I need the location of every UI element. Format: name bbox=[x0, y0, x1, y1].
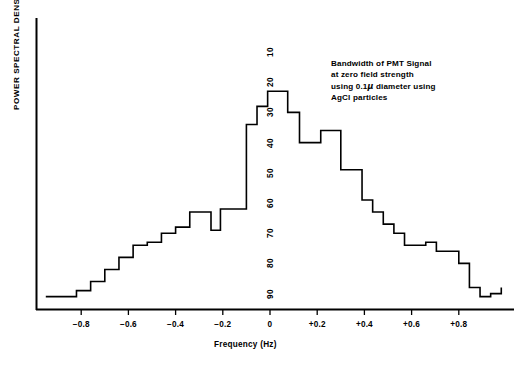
y-tick-label: 90 bbox=[266, 289, 275, 299]
micro-symbol: μ bbox=[367, 81, 373, 91]
x-tick-label: +0.6 bbox=[403, 320, 420, 329]
x-tick-label: +0.2 bbox=[309, 320, 326, 329]
y-tick-label: 20 bbox=[266, 77, 275, 87]
y-tick-label: 60 bbox=[266, 198, 275, 208]
x-tick-label: −0.2 bbox=[214, 320, 231, 329]
plot-area: POWER SPECTRAL DENSITY Frequency (Hz) −0… bbox=[0, 0, 523, 371]
x-tick-label: 0 bbox=[268, 320, 273, 329]
chart-annotation: Bandwidth of PMT Signalat zero field str… bbox=[331, 58, 481, 103]
annotation-line: Bandwidth of PMT Signal bbox=[331, 58, 481, 69]
y-tick-label: 80 bbox=[266, 258, 275, 268]
y-axis-title: POWER SPECTRAL DENSITY bbox=[10, 0, 24, 110]
y-tick-label: 10 bbox=[266, 47, 275, 57]
y-tick-label: 30 bbox=[266, 107, 275, 117]
x-tick-label: −0.6 bbox=[120, 320, 137, 329]
y-tick-label: 70 bbox=[266, 228, 275, 238]
x-tick-label: +0.8 bbox=[450, 320, 467, 329]
annotation-line: using 0.1μ diameter using bbox=[331, 81, 481, 92]
figure-root: POWER SPECTRAL DENSITY Frequency (Hz) −0… bbox=[0, 0, 523, 371]
chart-canvas bbox=[0, 0, 523, 371]
y-tick-label: 50 bbox=[266, 168, 275, 178]
annotation-line: at zero field strength bbox=[331, 69, 481, 80]
x-axis-title: Frequency (Hz) bbox=[214, 340, 277, 349]
x-tick-label: −0.8 bbox=[73, 320, 90, 329]
x-tick-label: +0.4 bbox=[356, 320, 373, 329]
x-tick-label: −0.4 bbox=[167, 320, 184, 329]
y-tick-label: 40 bbox=[266, 138, 275, 148]
annotation-line: AgCl particles bbox=[331, 92, 481, 103]
